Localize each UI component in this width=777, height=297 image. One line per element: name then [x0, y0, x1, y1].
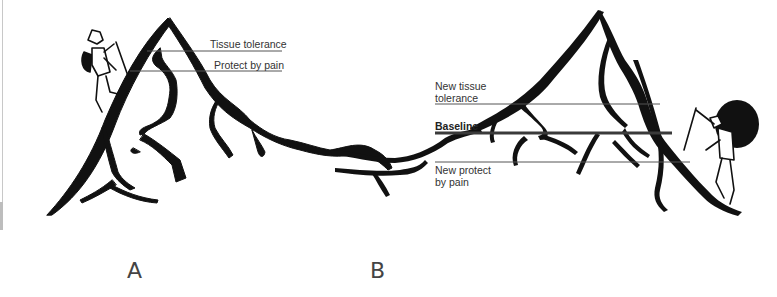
new-tissue-label-line2: tolerance	[435, 92, 478, 104]
mountain-b	[470, 10, 742, 216]
tissue-tolerance-label: Tissue tolerance	[210, 38, 287, 50]
protect-by-pain-label: Protect by pain	[214, 59, 284, 71]
mountains-illustration	[0, 0, 777, 297]
panel-b-label: B	[370, 258, 385, 283]
panel-a-label: A	[127, 258, 142, 283]
new-protect-label-line2: by pain	[435, 176, 469, 188]
new-tissue-label-line1: New tissue	[435, 80, 486, 92]
baseline-label: Baseline	[435, 120, 478, 132]
new-protect-label-line1: New protect	[435, 164, 491, 176]
